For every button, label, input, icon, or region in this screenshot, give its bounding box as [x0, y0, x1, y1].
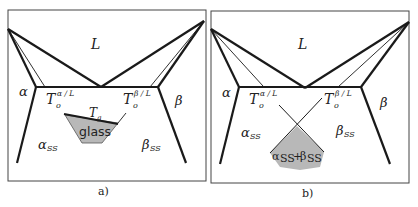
- label-liquid: L: [297, 36, 307, 52]
- t0-beta-line: [150, 21, 204, 87]
- right-liquidus-line: [305, 22, 409, 88]
- label-beta-ss-sub: SS: [150, 144, 161, 153]
- t0-alpha-line: [8, 29, 45, 87]
- label-t0-alpha-sup: α / L: [260, 89, 277, 98]
- right-liquidus-line: [101, 21, 204, 87]
- label-tg-sub: g: [97, 114, 102, 122]
- label-t0-beta-sub: o: [133, 101, 138, 110]
- label-alpha-ss: α: [38, 137, 47, 152]
- label-glass: glass: [79, 124, 111, 139]
- region-beta: β: [300, 150, 306, 163]
- t0-beta-line: [338, 22, 409, 87]
- label-alpha: α: [19, 84, 28, 99]
- label-alpha-ss: α: [241, 125, 250, 140]
- right-solidus-line: [361, 22, 409, 87]
- label-liquid: L: [90, 36, 100, 52]
- t0-extension-line: [118, 113, 126, 123]
- panel-a-caption: a): [98, 185, 109, 198]
- label-beta: β: [174, 93, 183, 108]
- label-beta-ss: β: [335, 123, 344, 138]
- region-alpha: α: [272, 150, 280, 163]
- label-alpha: α: [222, 85, 231, 100]
- label-beta-ss-sub: SS: [344, 130, 355, 139]
- label-alpha-plus-beta-ss: α SS + β SS: [272, 150, 322, 165]
- label-t0-alpha-sub: o: [56, 101, 61, 110]
- label-t0-beta-sup: β / L: [133, 89, 151, 98]
- region-beta-sub: SS: [307, 152, 322, 165]
- panel-b-caption: b): [302, 187, 313, 200]
- label-alpha-ss-sub: SS: [250, 132, 261, 141]
- panel-b: L α β T o α / L T o β / L α SS β SS α SS…: [211, 11, 409, 200]
- right-solidus-line: [158, 21, 204, 87]
- label-t0-alpha-sub: o: [259, 101, 264, 110]
- label-t0-beta-sub: o: [334, 101, 339, 110]
- label-t0-alpha-sup: α / L: [57, 89, 74, 98]
- label-beta-ss: β: [141, 137, 150, 152]
- label-beta: β: [379, 95, 388, 110]
- label-alpha-ss-sub: SS: [47, 144, 58, 153]
- label-t0-beta-sup: β / L: [334, 89, 352, 98]
- phase-diagram-figure: L α β T o α / L T o β / L T g glass α SS…: [0, 0, 418, 207]
- panel-a: L α β T o α / L T o β / L T g glass α SS…: [8, 10, 206, 198]
